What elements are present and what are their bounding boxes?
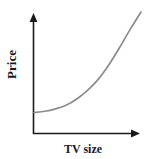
price-vs-tv-size-chart: Price TV size [0, 0, 148, 159]
y-axis-label: Price [5, 44, 18, 86]
x-axis-label: TV size [38, 143, 128, 155]
y-axis-arrow-icon [30, 13, 38, 22]
x-axis-arrow-icon [131, 130, 140, 138]
chart-canvas [0, 0, 148, 159]
price-curve [34, 12, 141, 113]
